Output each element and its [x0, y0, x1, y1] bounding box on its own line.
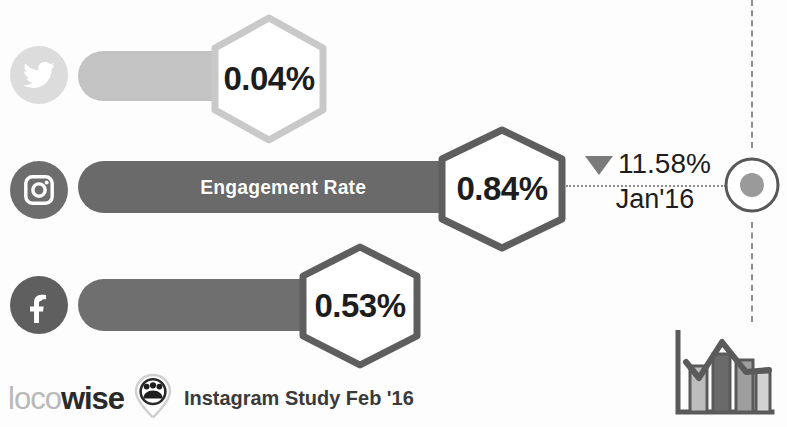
- value-instagram: 0.84%: [438, 126, 566, 252]
- facebook-icon: [10, 276, 68, 334]
- study-caption: Instagram Study Feb '16: [184, 386, 414, 410]
- footer: locowise Instagram Study Feb '16: [8, 373, 426, 423]
- brand-name-light: loco: [8, 381, 61, 416]
- target-circle-marker: [722, 155, 782, 215]
- bar-chart-icon: [668, 330, 780, 422]
- trend-change-row: 11.58%: [585, 150, 725, 178]
- value-facebook: 0.53%: [299, 243, 421, 369]
- triangle-down-icon: [585, 156, 613, 175]
- hexagon-value-twitter: 0.04%: [211, 14, 327, 144]
- brand-name-bold: wise: [61, 381, 124, 416]
- vertical-guide-line-bottom: [751, 222, 753, 322]
- trend-period: Jan'16: [585, 186, 725, 213]
- locowise-pin-icon: [132, 373, 174, 423]
- hexagon-value-facebook: 0.53%: [299, 243, 421, 369]
- hexagon-value-instagram: 0.84%: [438, 126, 566, 252]
- bar-instagram: Engagement Rate: [78, 161, 488, 213]
- instagram-icon: [10, 161, 68, 219]
- twitter-icon: [10, 46, 68, 104]
- engagement-rate-infographic: 0.04% Engagement Rate 0.84% 11.58% Jan'1…: [0, 0, 787, 427]
- trend-change-value: 11.58%: [618, 150, 711, 178]
- trend-callout: 11.58% Jan'16: [585, 150, 725, 213]
- brand-logo: locowise: [8, 383, 124, 414]
- vertical-guide-line-top: [751, 0, 753, 148]
- value-twitter: 0.04%: [211, 14, 327, 144]
- bar-label-instagram: Engagement Rate: [200, 175, 366, 199]
